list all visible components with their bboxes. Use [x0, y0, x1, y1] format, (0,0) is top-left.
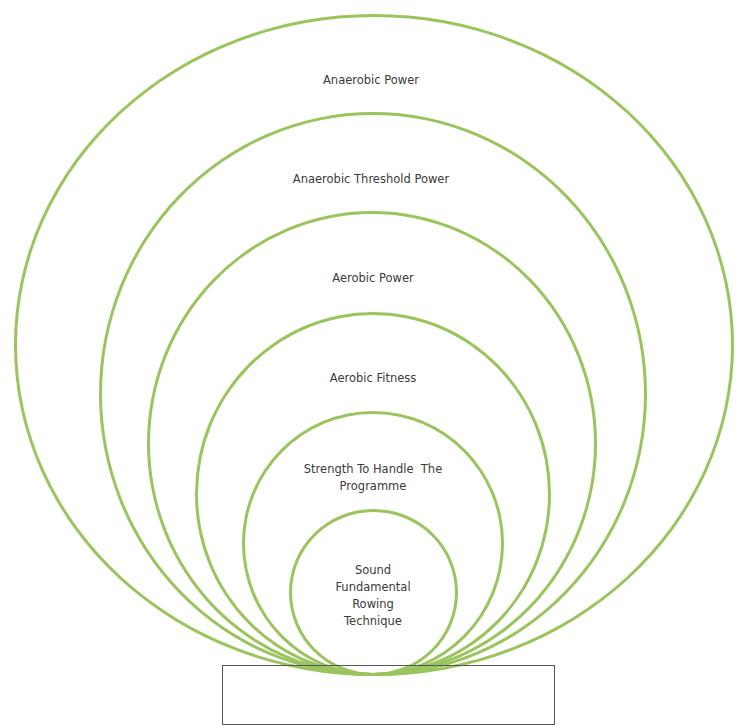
label-strength: Strength To Handle The Programme: [304, 461, 442, 495]
label-technique: Sound Fundamental Rowing Technique: [335, 562, 410, 630]
label-aerobic-power: Aerobic Power: [332, 270, 414, 287]
label-technique-line4: Technique: [335, 613, 410, 630]
label-technique-line3: Rowing: [335, 596, 410, 613]
label-aerobic-fitness: Aerobic Fitness: [330, 370, 417, 387]
label-technique-line2: Fundamental: [335, 579, 410, 596]
label-strength-line2: Programme: [304, 478, 442, 495]
label-anaerobic-power: Anaerobic Power: [323, 72, 419, 89]
label-strength-line1: Strength To Handle The: [304, 461, 442, 478]
label-anaerobic-threshold-power: Anaerobic Threshold Power: [293, 171, 449, 188]
base-box: [222, 665, 555, 725]
label-technique-line1: Sound: [335, 562, 410, 579]
